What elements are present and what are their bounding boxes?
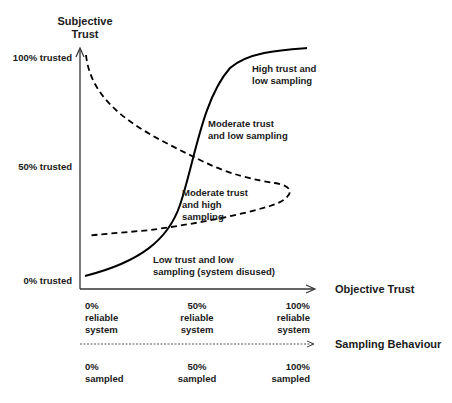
x-tick-100: 100% reliable system xyxy=(250,300,310,336)
y-tick-100: 100% trusted xyxy=(0,52,72,64)
sampling-tick-100: 100% sampled xyxy=(250,361,310,385)
label-low-trust-low-sampling: Low trust and low sampling (system disus… xyxy=(153,254,275,278)
sampling-axis-title: Sampling Behaviour xyxy=(335,338,441,351)
label-high-trust-low-sampling: High trust and low sampling xyxy=(252,63,316,87)
x-tick-0: 0% reliable system xyxy=(85,300,118,336)
sampling-tick-50: 50% sampled xyxy=(168,361,226,385)
y-axis-title-line1: Subjective xyxy=(50,15,120,28)
y-axis-title: Subjective Trust xyxy=(50,15,120,41)
label-moderate-trust-high-sampling: Moderate trust and high sampling xyxy=(182,187,248,223)
y-tick-0: 0% trusted xyxy=(0,275,72,287)
label-moderate-trust-low-sampling: Moderate trust and low sampling xyxy=(208,118,288,142)
sampling-axis xyxy=(80,341,314,347)
x-axis-title: Objective Trust xyxy=(335,283,414,296)
y-axis-title-line2: Trust xyxy=(50,28,120,41)
y-tick-50: 50% trusted xyxy=(0,161,72,173)
y-axis xyxy=(76,48,84,289)
x-axis xyxy=(80,285,315,293)
sampling-tick-0: 0% sampled xyxy=(85,361,124,385)
x-tick-50: 50% reliable system xyxy=(168,300,226,336)
